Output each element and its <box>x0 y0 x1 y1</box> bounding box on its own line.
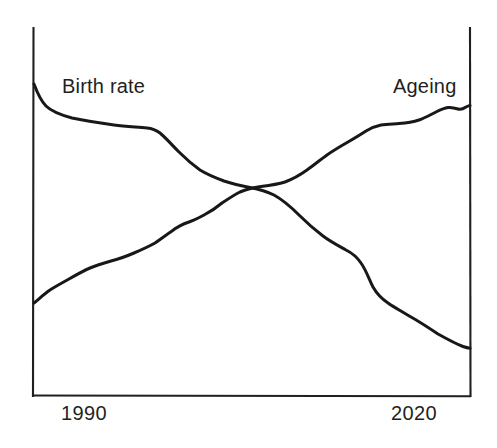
series-line-ageing <box>34 106 470 304</box>
y-axis-right <box>470 28 471 396</box>
x-axis-bottom <box>33 396 470 397</box>
chart-canvas <box>0 0 497 448</box>
x-axis-tick-1990: 1990 <box>61 403 107 423</box>
series-label-birth-rate: Birth rate <box>62 76 145 96</box>
chart-figure: Birth rate Ageing 1990 2020 <box>0 0 497 448</box>
series-label-ageing: Ageing <box>393 76 456 96</box>
x-axis-tick-2020: 2020 <box>391 403 437 423</box>
